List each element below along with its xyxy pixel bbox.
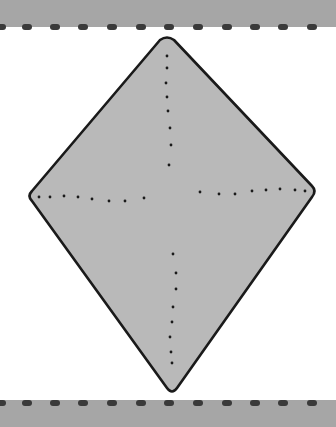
kite-shape	[30, 38, 315, 392]
kite-diagram	[0, 0, 336, 427]
bottom-band-dashes	[0, 400, 317, 406]
top-band-dashes	[0, 24, 317, 30]
